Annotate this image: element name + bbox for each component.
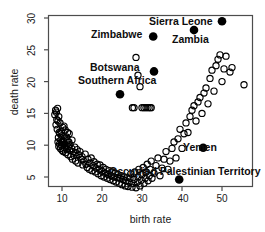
point-label-botswana: Botswana	[90, 61, 140, 73]
ytick-label-30: 30	[26, 8, 37, 30]
scatter-plot-figure: 30 25 20 15 10 5 10 20 30 40 50 death ra…	[0, 0, 265, 232]
xtick-label-50: 50	[210, 193, 234, 204]
ytick-label-25: 25	[26, 40, 37, 62]
xtick-label-40: 40	[171, 193, 195, 204]
xtick-label-20: 20	[90, 193, 114, 204]
y-axis-title: death rate	[8, 52, 20, 132]
ytick-label-15: 15	[26, 103, 37, 125]
ytick-label-5: 5	[26, 170, 37, 186]
point-label-yemen: Yemen	[183, 141, 217, 153]
point-label-southern-africa: Southern Africa	[78, 74, 156, 86]
point-label-zambia: Zambia	[172, 33, 209, 45]
point-label-opt: Occupied Palestinian Territory	[109, 165, 261, 177]
xtick-label-30: 30	[130, 193, 154, 204]
point-label-sierra-leone: Sierra Leone	[149, 15, 213, 27]
ytick-label-20: 20	[26, 72, 37, 94]
ytick-label-10: 10	[26, 135, 37, 157]
xtick-label-10: 10	[50, 193, 74, 204]
filled-circle-points	[116, 17, 227, 184]
x-axis-title: birth rate	[48, 213, 253, 225]
point-label-zimbabwe: Zimbabwe	[91, 28, 142, 40]
